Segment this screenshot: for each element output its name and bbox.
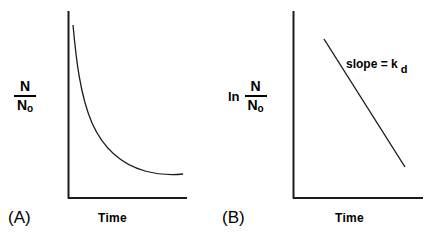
slope-annotation-subscript: d — [401, 63, 408, 75]
fraction-numerator: N — [249, 78, 263, 95]
panel-a-x-axis-label: Time — [98, 211, 127, 225]
fraction-numerator: N — [18, 78, 32, 95]
panel-b-plot — [222, 0, 444, 243]
fraction-denominator-subscript: o — [27, 103, 33, 114]
fraction-denominator-subscript: o — [258, 103, 264, 114]
slope-annotation: slope = kd — [346, 57, 404, 71]
panel-b-x-axis-label: Time — [335, 211, 364, 225]
panel-b-y-axis-label: ln N No — [228, 78, 267, 113]
decay-kinetics-figure: N No Time (A) ln N No — [0, 0, 444, 243]
fraction-denominator: No — [15, 97, 35, 114]
panel-a-letter: (A) — [8, 208, 31, 228]
panel-a-y-axis-label: N No — [14, 78, 36, 113]
natural-log-prefix: ln — [228, 89, 240, 103]
panel-a: N No Time (A) — [0, 0, 222, 243]
panel-b-letter: (B) — [222, 208, 245, 228]
panel-a-decay-curve — [73, 25, 183, 175]
fraction-n-over-n0: N No — [14, 78, 36, 113]
slope-annotation-text: slope = k — [346, 57, 398, 71]
fraction-denominator: No — [245, 97, 265, 114]
panel-a-plot — [0, 0, 222, 243]
panel-b: ln N No slope = kd Time (B) — [222, 0, 444, 243]
fraction-n-over-n0: N No — [245, 78, 267, 113]
